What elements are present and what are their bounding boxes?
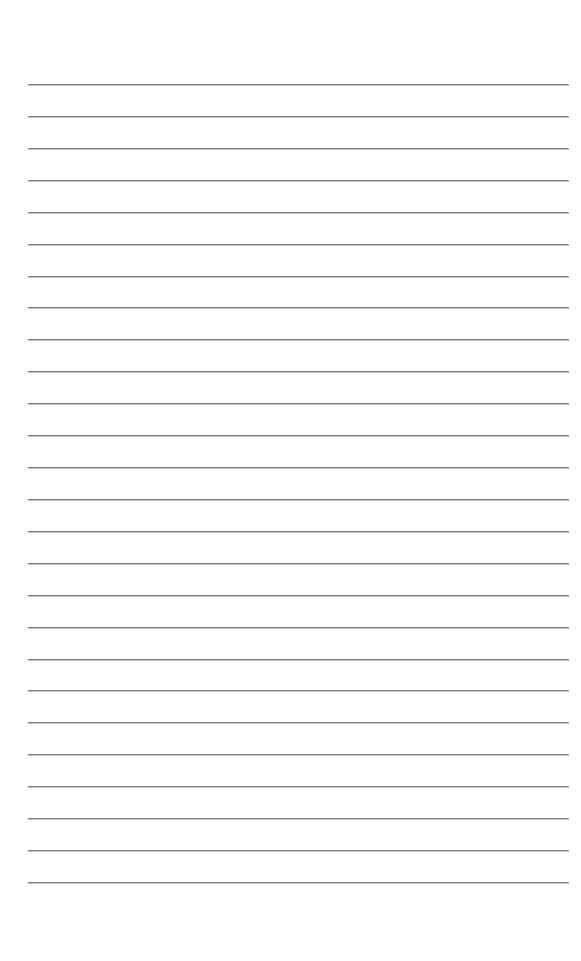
ruled-line <box>28 371 569 373</box>
ruled-line <box>28 403 569 405</box>
ruled-line <box>28 563 569 565</box>
ruled-line <box>28 690 569 692</box>
ruled-line <box>28 531 569 533</box>
ruled-line <box>28 786 569 788</box>
ruled-line <box>28 627 569 629</box>
ruled-line <box>28 467 569 469</box>
ruled-line <box>28 116 569 118</box>
ruled-line <box>28 276 569 278</box>
ruled-line <box>28 659 569 661</box>
ruled-line <box>28 754 569 756</box>
ruled-line <box>28 339 569 341</box>
ruled-line <box>28 499 569 501</box>
ruled-line <box>28 212 569 214</box>
ruled-line <box>28 435 569 437</box>
ruled-line <box>28 595 569 597</box>
lined-paper-page <box>0 0 581 961</box>
ruled-line <box>28 84 569 86</box>
ruled-line <box>28 818 569 820</box>
ruled-line <box>28 180 569 182</box>
ruled-line <box>28 148 569 150</box>
ruled-line <box>28 850 569 852</box>
ruled-line <box>28 244 569 246</box>
ruled-line <box>28 307 569 309</box>
ruled-line <box>28 882 569 884</box>
ruled-line <box>28 722 569 724</box>
